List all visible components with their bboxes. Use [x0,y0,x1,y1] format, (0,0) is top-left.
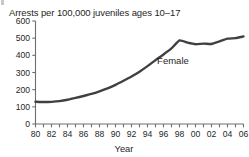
x-axis-tick-label: 06 [239,129,249,139]
x-axis-label: Year [115,144,134,154]
series-annotation-group: Female [157,55,189,66]
x-axis-tick-label: 00 [191,129,201,139]
y-axis-tick-label: 300 [16,68,31,78]
x-axis-tick-label: 02 [207,129,217,139]
x-axis-tick-label: 94 [143,129,153,139]
x-axis-tick-label: 88 [95,129,105,139]
x-axis: 8082848688909294969800020406 [31,124,249,139]
data-line-female [36,36,244,102]
x-axis-tick-label: 92 [127,129,137,139]
x-axis-tick-label: 90 [111,129,121,139]
y-axis-tick-label: 500 [16,33,31,43]
x-axis-tick-label: 98 [175,129,185,139]
line-chart-plot: 0100200300400500600 80828486889092949698… [0,0,249,157]
y-axis: 0100200300400500600 [16,16,36,129]
chart-figure: Arrests per 100,000 juveniles ages 10–17… [0,0,249,157]
x-axis-tick-label: 96 [159,129,169,139]
x-axis-tick-label: 86 [79,129,89,139]
x-axis-tick-label: 84 [63,129,73,139]
x-axis-tick-label: 04 [223,129,233,139]
x-axis-tick-label: 82 [47,129,57,139]
y-axis-tick-label: 200 [16,85,31,95]
y-axis-tick-label: 100 [16,102,31,112]
y-axis-tick-label: 0 [25,119,30,129]
y-axis-tick-label: 400 [16,50,31,60]
series-label-female: Female [157,55,189,66]
y-axis-tick-label: 600 [16,16,31,26]
x-axis-tick-label: 80 [31,129,41,139]
data-series-group [36,36,244,102]
